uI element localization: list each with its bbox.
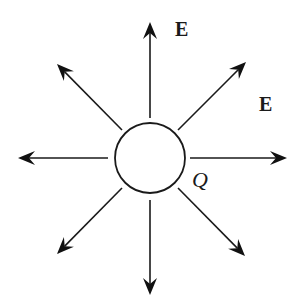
arrow-right [190,151,287,165]
field-label-e-top: E [175,18,188,40]
arrow-shaft [65,188,122,246]
point-charge-circle [115,123,185,193]
arrow-shaft [178,188,237,248]
arrow-down [143,200,157,295]
arrow-down-left [57,188,122,254]
field-diagram: Q E E [0,0,301,304]
field-label-e-right: E [259,93,272,115]
arrow-up-right [178,62,246,130]
arrow-shaft [178,70,238,130]
arrow-left [18,151,108,165]
charge-label: Q [192,167,208,192]
arrow-up-left [57,64,122,130]
arrow-up [143,22,157,118]
arrow-down-right [178,188,245,256]
arrow-shaft [65,72,122,130]
